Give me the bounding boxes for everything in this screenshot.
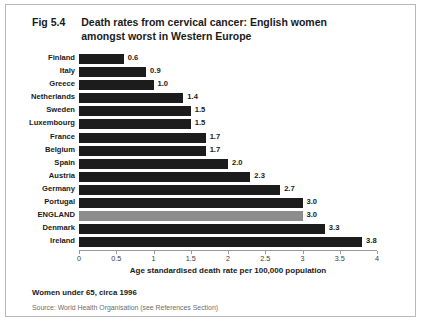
bar-category-label: Ireland (0, 236, 75, 246)
bar-category-label: Austria (0, 171, 75, 181)
bar-container (79, 106, 191, 116)
bar-value-label: 2.0 (232, 158, 243, 168)
bar-value-label: 3.8 (366, 236, 377, 246)
bar-category-label: France (0, 132, 75, 142)
bar-row: Sweden1.5 (6, 105, 417, 118)
bar-row: Belgium1.7 (6, 145, 417, 158)
bar (79, 133, 206, 143)
bar-row: Germany2.7 (6, 184, 417, 197)
bar (79, 185, 280, 195)
bar-container (79, 198, 303, 208)
bar-row: Netherlands1.4 (6, 92, 417, 105)
x-axis-tick-label: 4 (375, 254, 379, 263)
bar-category-label: Denmark (0, 223, 75, 233)
bar (79, 54, 124, 64)
figure-frame: Fig 5.4 Death rates from cervical cancer… (5, 4, 416, 317)
figure-source: Source: World Health Organisation (see R… (32, 304, 218, 311)
bar-value-label: 1.0 (158, 79, 169, 89)
bar-highlighted (79, 211, 303, 221)
bar-value-label: 0.6 (128, 53, 139, 63)
bar-container (79, 146, 206, 156)
bar-category-label: Germany (0, 184, 75, 194)
x-axis-label: Age standardised death rate per 100,000 … (79, 266, 377, 275)
bar (79, 93, 183, 103)
bar (79, 198, 303, 208)
bar (79, 119, 191, 129)
bar-container (79, 133, 206, 143)
bar-row: Denmark3.3 (6, 223, 417, 236)
x-axis-tick-label: 0 (77, 254, 81, 263)
bar-container (79, 80, 154, 90)
bar-row: ENGLAND3.0 (6, 210, 417, 223)
x-axis-tick-label: 2 (226, 254, 230, 263)
bar-value-label: 1.4 (187, 92, 198, 102)
bar-value-label: 1.5 (195, 105, 206, 115)
bar-chart: Finland0.6Italy0.9Greece1.0Netherlands1.… (6, 5, 417, 318)
bar-category-label: Italy (0, 66, 75, 76)
bar-rows: Finland0.6Italy0.9Greece1.0Netherlands1.… (6, 53, 417, 249)
bar-container (79, 237, 362, 247)
bar-container (79, 54, 124, 64)
bar-category-label: Portugal (0, 197, 75, 207)
bar-row: Finland0.6 (6, 53, 417, 66)
bar-container (79, 224, 325, 234)
bar-container (79, 67, 146, 77)
bar-category-label: Luxembourg (0, 118, 75, 128)
bar-container (79, 211, 303, 221)
bar (79, 146, 206, 156)
bar-value-label: 3.0 (307, 210, 318, 220)
bar (79, 159, 228, 169)
x-axis-tick-label: 1.5 (186, 254, 196, 263)
bar-value-label: 1.7 (210, 145, 221, 155)
bar-row: Austria2.3 (6, 171, 417, 184)
bar-value-label: 1.5 (195, 118, 206, 128)
bar-category-label: Spain (0, 158, 75, 168)
x-axis-tick-label: 0.5 (111, 254, 121, 263)
x-axis-tick-label: 2.5 (260, 254, 270, 263)
bar-category-label: Netherlands (0, 92, 75, 102)
bar (79, 80, 154, 90)
bar-value-label: 3.0 (307, 197, 318, 207)
bar-row: Luxembourg1.5 (6, 118, 417, 131)
bar-value-label: 0.9 (150, 66, 161, 76)
bar-category-label: Greece (0, 79, 75, 89)
x-axis-tick-label: 1 (152, 254, 156, 263)
bar-value-label: 2.3 (254, 171, 265, 181)
bar (79, 172, 250, 182)
bar (79, 106, 191, 116)
bar-row: Italy0.9 (6, 66, 417, 79)
bar-row: Spain2.0 (6, 158, 417, 171)
bar-category-label: ENGLAND (0, 210, 75, 220)
bar-value-label: 1.7 (210, 132, 221, 142)
bar-container (79, 185, 280, 195)
bar-row: Ireland3.8 (6, 236, 417, 249)
x-axis-tick-label: 3.5 (335, 254, 345, 263)
bar-container (79, 159, 228, 169)
figure-footnote: Women under 65, circa 1996 (32, 288, 137, 297)
bar-category-label: Belgium (0, 145, 75, 155)
bar-container (79, 172, 250, 182)
bar-row: Greece1.0 (6, 79, 417, 92)
bar-row: Portugal3.0 (6, 197, 417, 210)
bar (79, 237, 362, 247)
bar-value-label: 2.7 (284, 184, 295, 194)
bar (79, 224, 325, 234)
bar-container (79, 119, 191, 129)
bar-category-label: Finland (0, 53, 75, 63)
bar-category-label: Sweden (0, 105, 75, 115)
bar-row: France1.7 (6, 132, 417, 145)
bar-container (79, 93, 183, 103)
x-axis-tick-label: 3 (301, 254, 305, 263)
bar (79, 67, 146, 77)
bar-value-label: 3.3 (329, 223, 340, 233)
